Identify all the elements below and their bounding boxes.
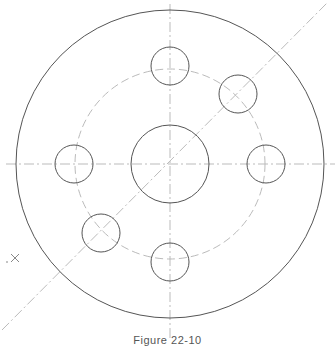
hole-lower-left — [82, 214, 120, 252]
cross-marker-icon — [6, 254, 19, 262]
figure-caption: Figure 22-10 — [0, 334, 335, 346]
hole-upper-right — [219, 75, 257, 113]
centerlines — [2, 2, 335, 340]
